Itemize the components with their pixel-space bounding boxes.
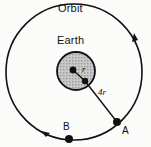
orbit-label: Orbit: [58, 3, 83, 14]
point-b-marker: [65, 135, 73, 143]
orbit-radius-label: 4r: [98, 88, 106, 97]
orbit-diagram: Orbit Earth r 4r A B: [0, 0, 151, 147]
earth-radius-label: r: [82, 65, 86, 74]
point-b-label: B: [63, 122, 70, 132]
orbit-direction-arrow-bottom: [41, 131, 50, 137]
point-a-label: A: [122, 126, 129, 136]
point-a-marker: [113, 118, 121, 126]
earth-label: Earth: [57, 35, 84, 46]
